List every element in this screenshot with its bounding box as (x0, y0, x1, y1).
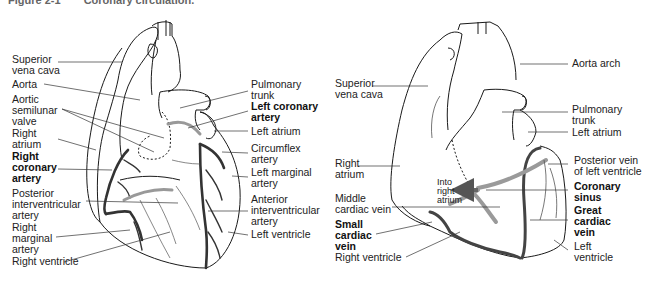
label-text: Coronary sinus (574, 180, 621, 203)
label-text: Posterior vein of left ventricle (574, 154, 642, 177)
label-text: Superior vena cava (335, 77, 383, 100)
label-posterior-interventricular-artery: Posterior interventricular artery (12, 188, 81, 221)
label-text: Right atrium (335, 157, 364, 180)
label-superior-vena-cava: Superior vena cava (12, 54, 60, 76)
label-text: Pulmonary trunk (251, 78, 301, 101)
label-text: Anterior interventricular artery (251, 193, 320, 227)
label-text: Left atrium (572, 126, 622, 138)
label-aorta: Aorta (12, 79, 37, 90)
label-text: Right ventricle (12, 255, 79, 267)
label-text: Pulmonary trunk (572, 103, 622, 126)
label-pulmonary-trunk: Pulmonary trunk (251, 79, 301, 101)
label-right-ventricle-posterior: Right ventricle (335, 252, 402, 263)
label-right-ventricle: Right ventricle (12, 256, 79, 267)
label-circumflex-artery: Circumflex artery (251, 143, 301, 165)
label-text: Middle cardiac vein (335, 192, 391, 215)
label-text: Circumflex artery (251, 142, 301, 165)
label-left-atrium: Left atrium (251, 126, 301, 137)
label-text: Aorta (12, 78, 37, 90)
anterior-heart-outline (87, 20, 240, 268)
label-text: Right coronary artery (12, 150, 57, 184)
label-text: Posterior interventricular artery (12, 187, 81, 221)
label-text: Right ventricle (335, 251, 402, 263)
anterior-shaded-vessels (124, 122, 200, 200)
label-great-cardiac-vein: Great cardiac vein (574, 205, 611, 238)
label-text: Aortic semilunar valve (12, 93, 58, 127)
label-aortic-semilunar-valve: Aortic semilunar valve (12, 94, 58, 127)
label-text: Great cardiac vein (574, 204, 611, 238)
label-left-coronary-artery: Left coronary artery (251, 101, 318, 123)
label-text: Small cardiac vein (335, 218, 372, 252)
label-right-atrium: Right atrium (12, 128, 41, 150)
label-posterior-vein-left-ventricle: Posterior vein of left ventricle (574, 155, 642, 177)
label-text: Into right atrium (437, 177, 462, 205)
label-text: Left marginal artery (251, 166, 312, 189)
label-left-atrium-posterior: Left atrium (572, 127, 622, 138)
label-superior-vena-cava-posterior: Superior vena cava (335, 78, 383, 100)
label-text: Left ventricle (251, 228, 311, 240)
label-middle-cardiac-vein: Middle cardiac vein (335, 193, 391, 215)
label-aorta-arch: Aorta arch (572, 58, 620, 69)
label-text: Right marginal artery (12, 221, 52, 255)
label-right-atrium-posterior: Right atrium (335, 158, 364, 180)
label-text: Left ventricle (574, 240, 613, 263)
anterior-arteries (105, 144, 225, 268)
posterior-heart-outline (391, 22, 566, 258)
label-pulmonary-trunk-posterior: Pulmonary trunk (572, 104, 622, 126)
label-left-ventricle: Left ventricle (251, 229, 311, 240)
label-left-ventricle-posterior: Left ventricle (574, 241, 613, 263)
label-left-marginal-artery: Left marginal artery (251, 167, 312, 189)
label-right-coronary-artery: Right coronary artery (12, 151, 57, 184)
label-text: Left coronary artery (251, 100, 318, 123)
label-coronary-sinus: Coronary sinus (574, 181, 621, 203)
label-right-marginal-artery: Right marginal artery (12, 222, 52, 255)
label-text: Right atrium (12, 127, 41, 150)
label-text: Left atrium (251, 125, 301, 137)
label-into-right-atrium: Into right atrium (437, 178, 462, 205)
label-text: Superior vena cava (12, 53, 60, 76)
label-text: Aorta arch (572, 57, 620, 69)
heart-diagrams (0, 0, 649, 282)
posterior-leader-lines (358, 64, 568, 257)
anterior-leader-lines (44, 62, 248, 262)
label-small-cardiac-vein: Small cardiac vein (335, 219, 372, 252)
label-anterior-interventricular-artery: Anterior interventricular artery (251, 194, 320, 227)
